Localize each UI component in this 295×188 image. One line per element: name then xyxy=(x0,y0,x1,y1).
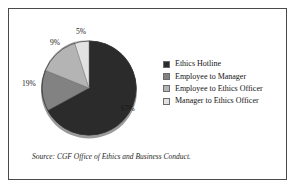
legend-item-manager-to-ethics-officer[interactable]: Manager to Ethics Officer xyxy=(163,95,263,107)
legend-swatch-icon-ethics-hotline xyxy=(163,61,170,68)
legend-swatch-icon-manager-to-ethics-officer xyxy=(163,98,170,105)
pie-chart-figure: 67% 19% 9% 5% Ethics Hotline Employee to… xyxy=(0,0,295,188)
legend-label-manager-to-ethics-officer: Manager to Ethics Officer xyxy=(175,97,259,105)
pie-svg xyxy=(34,33,144,145)
slice-label-ethics-hotline: 67% xyxy=(121,104,135,113)
legend-swatch-icon-employee-to-ethics-officer xyxy=(163,85,170,92)
chart-legend: Ethics Hotline Employee to Manager Emplo… xyxy=(163,58,263,108)
legend-label-ethics-hotline: Ethics Hotline xyxy=(175,60,221,68)
legend-label-employee-to-ethics-officer: Employee to Ethics Officer xyxy=(175,85,263,93)
legend-item-employee-to-ethics-officer[interactable]: Employee to Ethics Officer xyxy=(163,83,263,95)
legend-item-employee-to-manager[interactable]: Employee to Manager xyxy=(163,70,263,82)
chart-area: 67% 19% 9% 5% Ethics Hotline Employee to… xyxy=(0,0,295,188)
legend-item-ethics-hotline[interactable]: Ethics Hotline xyxy=(163,58,263,70)
slice-label-manager-to-ethics-officer: 5% xyxy=(76,27,86,36)
legend-swatch-icon-employee-to-manager xyxy=(163,73,170,80)
slice-label-employee-to-manager: 19% xyxy=(22,79,36,88)
slice-label-employee-to-ethics-officer: 9% xyxy=(50,38,60,47)
legend-label-employee-to-manager: Employee to Manager xyxy=(175,73,246,81)
source-note: Source: CGF Office of Ethics and Busines… xyxy=(32,152,191,161)
